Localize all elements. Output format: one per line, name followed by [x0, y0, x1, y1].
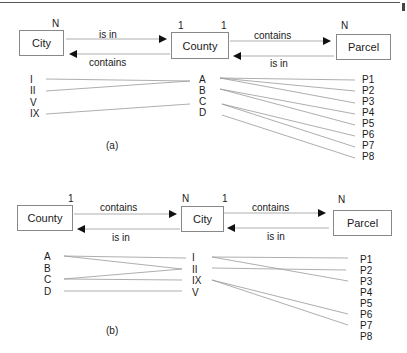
- cardinality-county-a-right: 1: [221, 20, 227, 31]
- list-item: P2: [360, 265, 372, 276]
- caption-b: (b): [106, 325, 118, 336]
- list-item: C: [44, 274, 51, 285]
- list-item: P2: [362, 85, 374, 96]
- caption-a: (a): [106, 140, 118, 151]
- entity-label: County: [183, 40, 218, 52]
- list-item: D: [44, 286, 51, 297]
- relation-label-b-left-bottom: is in: [112, 232, 130, 243]
- relation-label-b-left-top: contains: [100, 202, 137, 213]
- list-item: IX: [30, 108, 39, 119]
- relation-label-a-right-bottom: is in: [270, 58, 288, 69]
- list-item: V: [192, 287, 199, 298]
- list-item: IX: [192, 275, 201, 286]
- entity-box-county-a: County: [171, 32, 229, 59]
- entity-box-city-b: City: [181, 206, 224, 232]
- relation-label-a-left-bottom: contains: [89, 57, 126, 68]
- list-item: P5: [362, 118, 374, 129]
- cardinality-city-a: N: [52, 18, 59, 29]
- list-item: P5: [360, 298, 372, 309]
- cardinality-county-b: 1: [68, 193, 74, 204]
- list-item: C: [199, 96, 206, 107]
- list-item: P7: [360, 320, 372, 331]
- relation-label-a-right-top: contains: [254, 30, 291, 41]
- list-item: A: [199, 74, 206, 85]
- relation-label-b-right-bottom: is in: [267, 231, 285, 242]
- list-item: P4: [360, 287, 372, 298]
- entity-box-parcel-b: Parcel: [333, 210, 392, 236]
- list-item: P1: [362, 74, 374, 85]
- list-item: B: [44, 263, 51, 274]
- cardinality-city-b-left: N: [182, 193, 189, 204]
- list-item: D: [199, 107, 206, 118]
- list-item: P3: [362, 96, 374, 107]
- list-item: P8: [360, 331, 372, 342]
- relation-label-a-left-top: is in: [99, 29, 117, 40]
- list-item: B: [199, 85, 206, 96]
- list-item: P4: [362, 107, 374, 118]
- entity-box-county-b: County: [17, 205, 73, 231]
- list-item: P1: [360, 254, 372, 265]
- list-item: P7: [362, 140, 374, 151]
- entity-label: County: [28, 212, 63, 224]
- relation-label-b-right-top: contains: [252, 202, 289, 213]
- list-item: P6: [362, 129, 374, 140]
- list-item: II: [192, 264, 198, 275]
- cardinality-city-b-right: 1: [222, 193, 228, 204]
- entity-label: City: [32, 37, 51, 49]
- entity-box-city-a: City: [19, 30, 64, 56]
- list-item: V: [30, 97, 37, 108]
- cardinality-county-a-left: 1: [178, 20, 184, 31]
- entity-label: City: [193, 213, 212, 225]
- cardinality-parcel-b: N: [338, 194, 345, 205]
- list-item: P3: [360, 276, 372, 287]
- list-item: I: [30, 74, 33, 85]
- cardinality-parcel-a: N: [341, 20, 348, 31]
- list-item: P8: [362, 151, 374, 162]
- list-item: I: [192, 252, 195, 263]
- list-item: II: [30, 85, 36, 96]
- entity-label: Parcel: [348, 41, 379, 53]
- list-item: P6: [360, 309, 372, 320]
- list-item: A: [44, 251, 51, 262]
- entity-label: Parcel: [347, 217, 378, 229]
- entity-box-parcel-a: Parcel: [336, 34, 391, 60]
